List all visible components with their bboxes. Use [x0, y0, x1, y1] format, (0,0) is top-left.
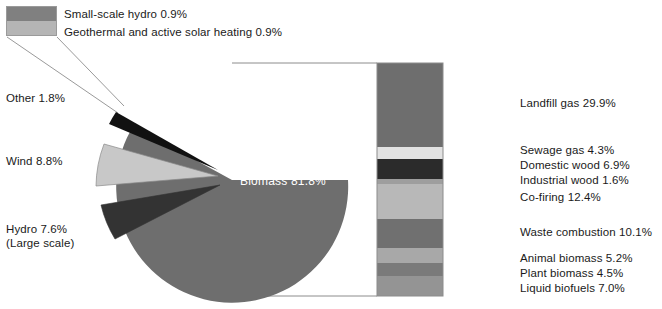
bar-segment-landfill-gas [377, 63, 443, 147]
pie-label-wind: Wind 8.8% [6, 155, 63, 168]
pie-chart [96, 112, 348, 303]
pie-label-hydro-sub: (Large scale) [6, 236, 74, 250]
bar-segment-plant-biomass [377, 263, 443, 276]
bar-label-domestic-wood: Domestic wood 6.9% [520, 159, 630, 172]
bar-label-plant-biomass: Plant biomass 4.5% [520, 267, 623, 280]
bar-label-co-firing: Co-firing 12.4% [520, 191, 601, 204]
bar-label-sewage-gas: Sewage gas 4.3% [520, 144, 614, 157]
bar-label-industrial-wood: Industrial wood 1.6% [520, 174, 629, 187]
bar-segment-liquid-biofuels [377, 276, 443, 296]
bar-segment-sewage-gas [377, 147, 443, 159]
renewable-energy-chart: Small-scale hydro 0.9% Geothermal and ac… [0, 0, 662, 309]
bar-label-waste-combustion: Waste combustion 10.1% [520, 226, 652, 239]
pie-label-hydro: Hydro 7.6% [6, 222, 67, 236]
bar-segment-domestic-wood [377, 159, 443, 179]
bar-label-landfill-gas: Landfill gas 29.9% [520, 97, 616, 110]
bar-label-animal-biomass: Animal biomass 5.2% [520, 252, 632, 265]
bar-segment-industrial-wood [377, 179, 443, 184]
stacked-bar [377, 63, 443, 296]
pie-label-biomass: Biomass 81.8% [240, 174, 326, 188]
bar-label-liquid-biofuels: Liquid biofuels 7.0% [520, 282, 625, 295]
bar-segment-waste-combustion [377, 219, 443, 248]
pie-label-other: Other 1.8% [6, 92, 65, 105]
bar-segment-animal-biomass [377, 248, 443, 263]
bar-segment-co-firing [377, 184, 443, 219]
